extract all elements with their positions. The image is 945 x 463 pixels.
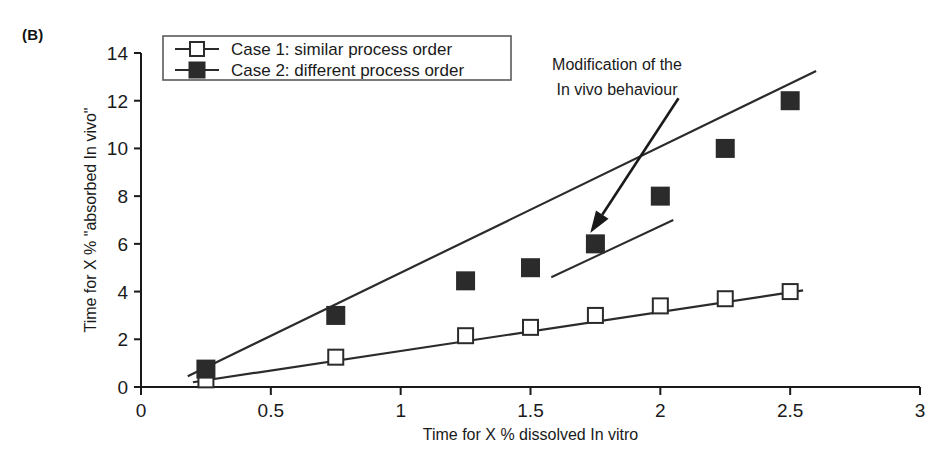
legend-label: Case 1: similar process order [231, 40, 452, 59]
legend-marker-filled-square [190, 63, 205, 78]
legend-label: Case 2: different process order [231, 61, 464, 80]
legend-marker-open-square [190, 42, 204, 56]
data-point [587, 235, 604, 252]
figure-panel-b: (B) 02468101214 00.511.522.53 Modificati… [0, 0, 945, 463]
y-tick-label-2: 2 [117, 329, 128, 350]
y-axis-title: Time for X % "absorbed In vivo" [82, 107, 99, 332]
y-tick-label-14: 14 [107, 43, 129, 64]
annotation-line-1: Modification of the [552, 56, 682, 73]
x-tick-label-3: 3 [915, 400, 926, 421]
data-point [588, 308, 603, 323]
y-axis-ticks: 02468101214 [107, 43, 141, 398]
x-axis-title: Time for X % dissolved In vitro [423, 426, 639, 443]
annotation-arrow-head [590, 211, 608, 234]
data-point [718, 291, 733, 306]
trend-line-case-2-lower-fit [188, 71, 816, 376]
data-point [783, 284, 798, 299]
chart-canvas: 02468101214 00.511.522.53 Modification o… [0, 0, 945, 463]
data-point [523, 320, 538, 335]
series-markers-group [197, 92, 798, 387]
y-tick-label-10: 10 [107, 138, 128, 159]
series-2-markers [197, 92, 798, 377]
data-point [327, 307, 344, 324]
chart-legend[interactable]: Case 1: similar process orderCase 2: dif… [163, 36, 511, 80]
y-tick-label-4: 4 [117, 282, 128, 303]
x-tick-label-1: 1 [395, 400, 406, 421]
x-tick-label-0: 0 [136, 400, 147, 421]
x-tick-label-2.5: 2.5 [777, 400, 803, 421]
data-point [652, 188, 669, 205]
x-tick-label-2: 2 [655, 400, 666, 421]
x-axis-ticks: 00.511.522.53 [136, 387, 926, 421]
trend-line-case-1-fit [193, 290, 803, 382]
y-tick-label-12: 12 [107, 91, 128, 112]
data-point [717, 140, 734, 157]
data-point [522, 259, 539, 276]
trend-lines-group [188, 71, 816, 382]
x-tick-label-1.5: 1.5 [517, 400, 543, 421]
data-point [458, 328, 473, 343]
y-tick-label-6: 6 [117, 234, 128, 255]
trend-line-case-2-branch-fit [551, 220, 673, 277]
data-point [782, 92, 799, 109]
y-tick-label-0: 0 [117, 377, 128, 398]
data-point [457, 272, 474, 289]
annotation-line-2: In vivo behaviour [557, 81, 679, 98]
data-point [328, 350, 343, 365]
y-tick-label-8: 8 [117, 186, 128, 207]
axes-group [141, 53, 920, 387]
data-point [197, 361, 214, 378]
x-tick-label-0.5: 0.5 [258, 400, 284, 421]
data-point [653, 298, 668, 313]
